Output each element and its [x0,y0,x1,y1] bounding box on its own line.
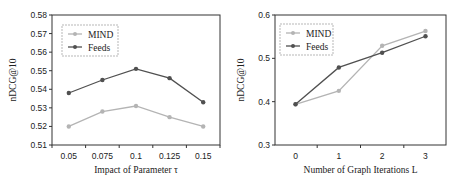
data-point-mind [67,124,71,128]
charts-canvas: 0.510.520.530.540.550.560.570.580.050.07… [0,0,464,182]
legend-label: MIND [306,29,331,39]
data-point-feeds [100,78,104,82]
y-tick-label: 0.55 [30,66,47,76]
y-tick-label: 0.6 [258,10,270,20]
data-point-feeds [380,51,384,55]
data-point-feeds [167,76,171,80]
legend-label: Feeds [306,42,328,52]
data-point-feeds [423,34,427,38]
data-point-mind [100,109,104,113]
y-tick-label: 0.53 [30,103,47,113]
chart-1: 0.510.520.530.540.550.560.570.580.050.07… [8,10,220,175]
data-point-mind [201,124,205,128]
data-point-feeds [201,100,205,104]
series-line-mind [69,106,203,126]
data-point-feeds [67,91,71,95]
y-tick-label: 0.58 [30,10,47,20]
data-point-mind [134,104,138,108]
x-tick-label: 0.15 [195,151,212,161]
data-point-mind [423,29,427,33]
y-tick-label: 0.5 [258,53,270,63]
x-tick-label: 0.05 [61,151,78,161]
y-tick-label: 0.3 [258,140,270,150]
legend-label: MIND [88,30,113,40]
data-point-mind [337,89,341,93]
x-tick-label: 3 [423,151,428,161]
x-tick-label: 0.1 [130,151,142,161]
y-axis-label: nDCG@10 [8,58,18,101]
data-point-feeds [134,67,138,71]
chart-2: 0.30.40.50.60123Number of Graph Iteratio… [236,10,446,175]
x-tick-label: 0 [293,151,298,161]
x-axis-label: Impact of Parameter τ [94,165,178,175]
data-point-mind [167,115,171,119]
legend: MINDFeeds [280,24,333,55]
legend-label: Feeds [88,43,110,53]
y-tick-label: 0.54 [30,84,47,94]
y-tick-label: 0.57 [30,29,47,39]
series-line-feeds [69,69,203,102]
y-axis-label: nDCG@10 [236,58,246,101]
legend: MINDFeeds [62,25,118,56]
y-tick-label: 0.4 [258,97,270,107]
x-tick-label: 1 [336,151,341,161]
x-axis-label: Number of Graph Iterations L [304,165,418,175]
data-point-feeds [337,65,341,69]
y-tick-label: 0.51 [30,140,47,150]
data-point-feeds [293,102,297,106]
x-tick-label: 0.125 [159,151,181,161]
y-tick-label: 0.52 [30,121,47,131]
data-point-mind [380,44,384,48]
y-tick-label: 0.56 [30,47,47,57]
figure: 0.510.520.530.540.550.560.570.580.050.07… [0,0,464,182]
x-tick-label: 2 [380,151,385,161]
x-tick-label: 0.075 [92,151,114,161]
